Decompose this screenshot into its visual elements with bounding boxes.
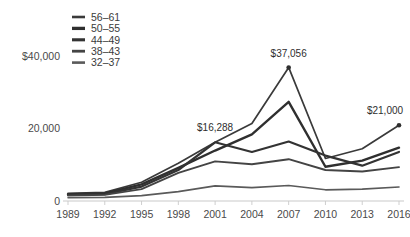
x-axis-label: 2004 [240, 208, 264, 220]
x-axis-label: 1998 [167, 208, 191, 220]
legend-label: 32–37 [91, 56, 120, 68]
series-lines [68, 67, 399, 197]
legend-label: 38–43 [91, 45, 120, 57]
chart-legend: 56–6150–5544–4938–4332–37 [72, 11, 120, 69]
x-axis-label: 2013 [351, 208, 375, 220]
y-axis-label: 20,000 [28, 122, 60, 134]
x-axis-labels: 1989199219951998200120042007201020132016 [56, 208, 410, 220]
legend-label: 44–49 [91, 34, 120, 46]
x-axis-ticks [68, 201, 399, 205]
series-line-56-61 [68, 67, 399, 193]
annotation-label: $37,056 [271, 48, 308, 59]
annotation-label: $21,000 [367, 105, 404, 116]
x-axis-label: 1989 [56, 208, 80, 220]
y-axis-label: $40,000 [22, 50, 60, 62]
legend-label: 50–55 [91, 22, 120, 34]
chart-canvas: 56–6150–5544–4938–4332–37 $40,00020,0000… [0, 0, 410, 237]
x-axis-label: 2001 [203, 208, 227, 220]
x-axis-label: 1992 [93, 208, 117, 220]
y-axis-label: 0 [54, 195, 60, 207]
annotation-dot [397, 123, 402, 128]
annotation-label: $16,288 [197, 122, 234, 133]
legend-label: 56–61 [91, 11, 120, 23]
x-axis-label: 2007 [277, 208, 301, 220]
x-axis-label: 2010 [314, 208, 338, 220]
x-axis-label: 1995 [130, 208, 154, 220]
line-chart: 56–6150–5544–4938–4332–37 $40,00020,0000… [0, 0, 410, 237]
annotation-dot [286, 65, 291, 70]
x-axis-label: 2016 [387, 208, 410, 220]
y-axis-labels: $40,00020,0000 [22, 50, 60, 206]
